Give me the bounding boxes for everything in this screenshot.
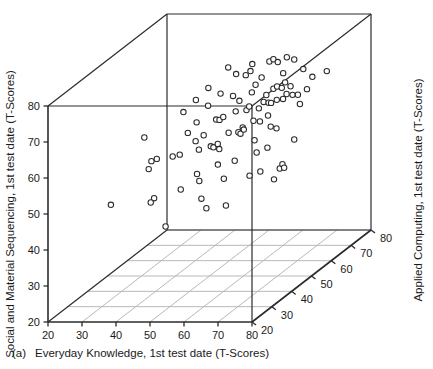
z-axis-title: Applied Computing, 1st test date (T-Scor… — [412, 78, 424, 301]
data-point — [237, 98, 242, 103]
panel-label: (a) — [12, 347, 26, 359]
data-point — [194, 171, 199, 176]
z-tick-label: 70 — [360, 247, 372, 259]
y-tick-label: 20 — [28, 316, 40, 328]
data-point — [142, 135, 147, 140]
data-point — [301, 66, 306, 71]
z-tick — [272, 307, 276, 310]
y-tick-label: 60 — [28, 172, 40, 184]
axis-ticks — [44, 106, 376, 327]
data-point — [268, 100, 273, 105]
data-point — [254, 150, 259, 155]
data-point — [199, 196, 204, 201]
floor-gridlines — [68, 230, 371, 322]
data-point — [288, 84, 293, 89]
data-point — [149, 158, 154, 163]
data-point — [256, 106, 261, 111]
data-point — [230, 93, 235, 98]
data-point — [247, 173, 252, 178]
figure-panel: 2030405060708020304050607080203040506070… — [0, 0, 433, 369]
z-tick — [292, 291, 296, 294]
data-point — [233, 109, 238, 114]
data-point — [163, 224, 168, 229]
data-point — [248, 68, 253, 73]
data-point — [284, 91, 289, 96]
z-tick — [331, 261, 335, 264]
data-point — [252, 138, 257, 143]
data-point — [218, 91, 223, 96]
data-point — [197, 178, 202, 183]
data-point — [215, 141, 220, 146]
x-tick-label: 40 — [110, 329, 122, 341]
y-axis-title: Social and Material Sequencing, 1st test… — [4, 70, 16, 358]
data-point — [280, 70, 285, 75]
data-point — [258, 169, 263, 174]
data-point — [292, 137, 297, 142]
data-point — [265, 145, 270, 150]
data-point — [232, 158, 237, 163]
data-point — [246, 104, 251, 109]
data-point — [279, 85, 284, 90]
data-point — [221, 114, 226, 119]
data-point — [194, 120, 199, 125]
x-tick-label: 60 — [178, 329, 190, 341]
z-tick-label: 30 — [281, 309, 293, 321]
data-point — [253, 82, 258, 87]
data-point — [281, 165, 286, 170]
data-points — [108, 55, 329, 230]
x-tick-label: 80 — [246, 329, 258, 341]
data-point — [170, 154, 175, 159]
x-tick-label: 20 — [42, 329, 54, 341]
data-point — [205, 103, 210, 108]
x-tick-label: 30 — [76, 329, 88, 341]
z-tick-label: 60 — [340, 263, 352, 275]
data-point — [324, 68, 329, 73]
data-point — [223, 203, 228, 208]
y-tick-label: 50 — [28, 208, 40, 220]
data-point — [310, 74, 315, 79]
data-point — [251, 118, 256, 123]
data-point — [178, 187, 183, 192]
y-tick-label: 40 — [28, 244, 40, 256]
z-tick — [351, 245, 355, 248]
data-point — [264, 92, 269, 97]
data-point — [304, 86, 309, 91]
data-point — [297, 101, 302, 106]
data-point — [185, 130, 190, 135]
data-point — [108, 202, 113, 207]
data-point — [282, 80, 287, 85]
data-point — [259, 75, 264, 80]
data-point — [241, 127, 246, 132]
data-point — [204, 206, 209, 211]
data-point — [217, 146, 222, 151]
data-point — [154, 156, 159, 161]
data-point — [206, 85, 211, 90]
z-tick-label: 50 — [321, 278, 333, 290]
data-point — [274, 126, 279, 131]
data-point — [284, 55, 289, 60]
data-point — [250, 61, 255, 66]
data-point — [295, 92, 300, 97]
x-tick-label: 70 — [212, 329, 224, 341]
data-point — [257, 119, 262, 124]
data-point — [271, 177, 276, 182]
y-tick-label: 80 — [28, 100, 40, 112]
data-point — [233, 71, 238, 76]
data-point — [193, 97, 198, 102]
data-point — [221, 176, 226, 181]
data-point — [215, 162, 220, 167]
data-point — [275, 59, 280, 64]
data-point — [177, 152, 182, 157]
data-point — [226, 65, 231, 70]
y-tick-label: 70 — [28, 136, 40, 148]
data-point — [249, 90, 254, 95]
x-tick-label: 50 — [144, 329, 156, 341]
tick-labels: 2030405060708020304050607080203040506070… — [28, 100, 393, 341]
data-point — [268, 124, 273, 129]
x-axis-title: Everyday Knowledge, 1st test date (T-Sco… — [35, 347, 269, 359]
z-tick-label: 80 — [380, 232, 392, 244]
data-point — [274, 97, 279, 102]
z-tick-label: 20 — [261, 324, 273, 336]
data-point — [243, 72, 248, 77]
scatter3d-plot: 2030405060708020304050607080203040506070… — [0, 0, 433, 369]
